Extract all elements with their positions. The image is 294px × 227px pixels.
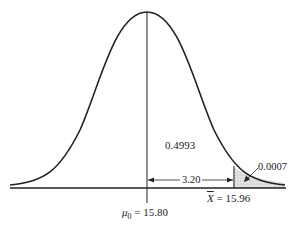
tail-area-label: 0.0007 [258,162,287,173]
mu-value: = 15.80 [132,206,168,218]
mean-label: μ0 = 15.80 [122,207,168,221]
center-area-label: 0.4993 [165,140,195,151]
distance-label: 3.20 [180,175,202,186]
sample-mean-label: X = 15.96 [207,193,250,204]
xbar-value: = 15.96 [214,192,250,204]
xbar-symbol: X [207,192,214,204]
